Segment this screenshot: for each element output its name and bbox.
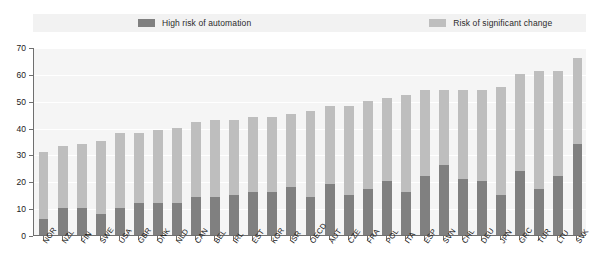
- bar-segment-high-risk: [420, 176, 430, 235]
- bar-group: [363, 101, 373, 235]
- y-tick-label: 60: [17, 70, 26, 80]
- bar-segment-high-risk: [553, 176, 563, 235]
- bar-segment-significant-change: [210, 120, 220, 198]
- bar-series-container: [34, 48, 586, 235]
- bar-group: [420, 90, 430, 235]
- bar-segment-significant-change: [172, 128, 182, 203]
- bar-group: [191, 122, 201, 235]
- bar-group: [458, 90, 468, 235]
- bar-group: [115, 133, 125, 235]
- bar-group: [153, 130, 163, 235]
- bar-group: [439, 90, 449, 235]
- bar-group: [229, 120, 239, 235]
- bar-group: [344, 106, 354, 235]
- bar-segment-significant-change: [515, 74, 525, 171]
- bar-segment-significant-change: [286, 114, 296, 187]
- bar-segment-significant-change: [96, 141, 106, 214]
- bar-segment-high-risk: [401, 192, 411, 235]
- bar-segment-significant-change: [77, 144, 87, 208]
- bar-segment-high-risk: [573, 144, 583, 235]
- bar-group: [134, 133, 144, 235]
- y-tick-label: 0: [21, 231, 26, 241]
- bar-segment-significant-change: [267, 117, 277, 192]
- bar-group: [573, 58, 583, 235]
- bar-segment-significant-change: [134, 133, 144, 203]
- bar-group: [401, 95, 411, 235]
- y-tick-label: 40: [17, 124, 26, 134]
- bar-segment-significant-change: [458, 90, 468, 179]
- legend-swatch-dark-icon: [138, 19, 155, 27]
- chart-legend: High risk of automation Risk of signific…: [33, 14, 586, 32]
- bar-segment-high-risk: [439, 165, 449, 235]
- bar-group: [306, 111, 316, 235]
- bar-segment-high-risk: [458, 179, 468, 235]
- y-axis: 010203040506070: [0, 48, 33, 238]
- bar-segment-significant-change: [306, 111, 316, 197]
- bar-group: [248, 117, 258, 235]
- bar-segment-significant-change: [39, 152, 49, 219]
- bar-group: [382, 98, 392, 235]
- bar-segment-significant-change: [553, 71, 563, 176]
- legend-item-high-risk-of-automation: High risk of automation: [138, 18, 251, 28]
- y-tick-label: 30: [17, 150, 26, 160]
- bar-segment-significant-change: [229, 120, 239, 195]
- bar-segment-significant-change: [573, 58, 583, 144]
- bar-segment-high-risk: [363, 189, 373, 235]
- bar-group: [267, 117, 277, 235]
- bar-segment-high-risk: [286, 187, 296, 235]
- bar-group: [58, 146, 68, 235]
- bar-segment-significant-change: [115, 133, 125, 208]
- bar-segment-significant-change: [401, 95, 411, 192]
- y-tick-label: 70: [17, 43, 26, 53]
- y-tick-label: 10: [17, 204, 26, 214]
- bar-group: [477, 90, 487, 235]
- bar-segment-significant-change: [58, 146, 68, 208]
- bar-group: [515, 74, 525, 235]
- bar-segment-significant-change: [477, 90, 487, 181]
- x-axis-labels: NORNZLFINSWEUSAGBRDNKNLDCANBELIRLESTKORI…: [33, 240, 586, 270]
- bar-group: [210, 120, 220, 235]
- bar-group: [553, 71, 563, 235]
- bar-segment-significant-change: [325, 106, 335, 184]
- bar-segment-significant-change: [248, 117, 258, 192]
- bar-segment-high-risk: [382, 181, 392, 235]
- bar-segment-high-risk: [515, 171, 525, 235]
- bar-group: [325, 106, 335, 235]
- bar-segment-high-risk: [477, 181, 487, 235]
- bar-group: [534, 71, 544, 235]
- plot-area: [33, 48, 586, 236]
- legend-label-high-risk-of-automation: High risk of automation: [162, 18, 251, 28]
- bar-segment-significant-change: [439, 90, 449, 165]
- bar-group: [286, 114, 296, 235]
- bar-segment-significant-change: [344, 106, 354, 195]
- bar-group: [172, 128, 182, 235]
- bar-segment-significant-change: [496, 87, 506, 194]
- bar-segment-significant-change: [420, 90, 430, 176]
- legend-swatch-light-icon: [429, 19, 446, 27]
- y-tick-label: 20: [17, 177, 26, 187]
- bar-group: [39, 152, 49, 235]
- legend-item-risk-of-significant-change: Risk of significant change: [429, 18, 552, 28]
- bar-segment-significant-change: [382, 98, 392, 181]
- bar-group: [96, 141, 106, 235]
- automation-risk-chart: High risk of automation Risk of signific…: [0, 0, 603, 270]
- bar-segment-significant-change: [191, 122, 201, 197]
- bar-segment-significant-change: [534, 71, 544, 189]
- bar-group: [77, 144, 87, 235]
- bar-segment-significant-change: [363, 101, 373, 190]
- legend-label-risk-of-significant-change: Risk of significant change: [453, 18, 552, 28]
- bar-segment-significant-change: [153, 130, 163, 203]
- y-tick-label: 50: [17, 97, 26, 107]
- bar-group: [496, 87, 506, 235]
